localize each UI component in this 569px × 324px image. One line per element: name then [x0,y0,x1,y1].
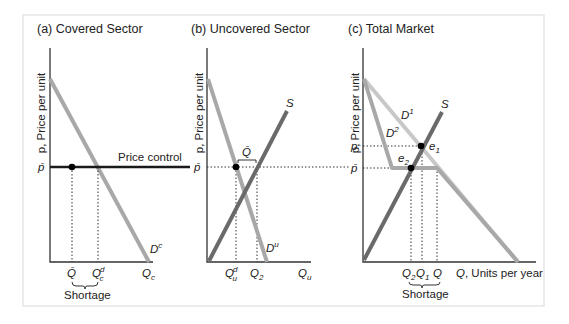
panel-c-pbar-label: p̄ [350,162,358,174]
price-control-diagram: (a) Covered Sector p, Price per unit Pri… [0,0,569,324]
panel-c-q-label: Q [433,267,442,279]
panel-a-title: (a) Covered Sector [37,22,143,36]
panel-a-shortage-label: Shortage [64,289,111,301]
panel-b-pbar-label: p̄ [193,161,201,173]
panel-a-price-control-label: Price control [118,151,182,163]
panel-c-supply-label: S [441,98,449,110]
panel-a-y-axis-label: p, Price per unit [35,72,47,153]
panel-b-y-axis-label: p, Price per unit [193,72,205,153]
panel-a-equilibrium-point [69,164,76,171]
panel-c-e1-point [418,143,425,150]
panel-b-title: (b) Uncovered Sector [191,22,310,36]
panel-c-p-label: p [350,140,358,152]
panel-a-pbar-label: p̄ [37,161,45,173]
panel-c-title: (c) Total Market [348,22,434,36]
panel-b-supply-label: S [286,97,294,109]
panel-b-qbar-label: Q̄ [242,146,251,158]
panel-a-qbar-label: Q̄ [67,267,76,279]
panel-c-shortage-label: Shortage [402,288,449,300]
panel-c-x-axis-label: Q, Units per year [456,267,543,279]
panel-b-quantity-point [233,164,240,171]
